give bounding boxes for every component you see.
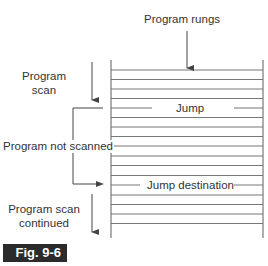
jump-destination-label: Jump destination	[147, 179, 234, 192]
program-scan-continued-label-2: continued	[4, 217, 84, 230]
jump-label: Jump	[176, 102, 204, 115]
program-scan-label-1: Program	[22, 70, 66, 83]
program-rungs-label: Program rungs	[144, 13, 220, 26]
skip-arrowhead	[96, 181, 104, 187]
rungs	[111, 70, 263, 224]
figure-label: Fig. 9-6	[3, 244, 67, 262]
program-scan-label-2: scan	[22, 84, 66, 97]
program-not-scanned-label: Program not scanned	[2, 140, 114, 153]
program-scan-continued-label-1: Program scan	[4, 203, 84, 216]
